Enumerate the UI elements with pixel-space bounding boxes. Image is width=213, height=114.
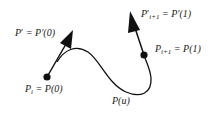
start-point-dot bbox=[43, 73, 50, 80]
start-tangent-arrowhead bbox=[60, 30, 73, 49]
end-tangent-shaft bbox=[135, 28, 144, 55]
start-tangent-shaft bbox=[47, 44, 66, 77]
end-point-dot bbox=[140, 51, 147, 58]
end-point-label: Pi+1 = P(1) bbox=[155, 44, 201, 56]
start-point-label: Pi = P(0) bbox=[25, 84, 63, 96]
curve-label: P(u) bbox=[112, 96, 130, 106]
start-tangent-label: P′ = P′(0) bbox=[15, 28, 55, 38]
curve-p-u bbox=[57, 48, 151, 94]
end-tangent-label: P′i+1 = P′(1) bbox=[141, 9, 191, 21]
end-tangent-arrowhead bbox=[128, 11, 140, 33]
